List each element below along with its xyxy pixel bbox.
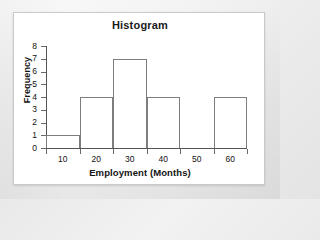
x-axis-tick [147, 149, 148, 154]
x-axis-tick-label: 60 [217, 155, 243, 164]
y-axis-tick [41, 123, 46, 124]
x-axis-tick-label: 50 [184, 155, 210, 164]
x-axis-tick [214, 149, 215, 154]
histogram-bar [214, 97, 248, 148]
y-axis-tick-label: 2 [21, 118, 37, 127]
x-axis-tick-label: 20 [83, 155, 109, 164]
y-axis-tick-label: 4 [21, 93, 37, 102]
x-axis-tick [113, 149, 114, 154]
y-axis-tick [41, 97, 46, 98]
y-axis-tick-label: 7 [21, 54, 37, 63]
y-axis-tick-label: 5 [21, 80, 37, 89]
plot-area: Frequency 012345678 102030405060 Employm… [14, 13, 266, 186]
y-axis-tick-label: 6 [21, 67, 37, 76]
x-axis-tick-label: 40 [150, 155, 176, 164]
x-axis-tick [46, 149, 47, 154]
y-axis-tick-label: 3 [21, 105, 37, 114]
y-axis-tick-label: 1 [21, 131, 37, 140]
y-axis-tick-label: 0 [21, 144, 37, 153]
histogram-bar [80, 97, 114, 148]
y-axis-line [46, 46, 47, 149]
y-axis-tick [41, 72, 46, 73]
histogram-bar [147, 97, 181, 148]
y-axis-tick [41, 110, 46, 111]
x-axis-tick-label: 10 [50, 155, 76, 164]
x-axis-tick [180, 149, 181, 154]
histogram-bar [113, 59, 147, 148]
x-axis-tick-label: 30 [117, 155, 143, 164]
x-axis-label: Employment (Months) [14, 167, 266, 178]
y-axis-tick [41, 46, 46, 47]
x-axis-tick [80, 149, 81, 154]
x-axis-tick [247, 149, 248, 154]
chart-panel: Histogram Frequency 012345678 1020304050… [13, 12, 265, 185]
y-axis-tick [41, 84, 46, 85]
y-axis-tick-label: 8 [21, 42, 37, 51]
y-axis-tick [41, 59, 46, 60]
histogram-bar [46, 135, 80, 148]
